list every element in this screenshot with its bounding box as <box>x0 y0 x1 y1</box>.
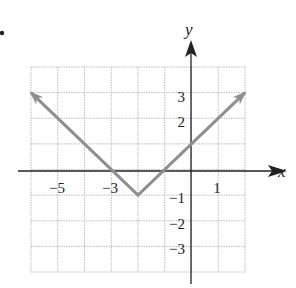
y-axis-label: y <box>183 20 193 39</box>
y-tick-label: −2 <box>169 216 185 232</box>
y-tick-label: −1 <box>169 190 185 206</box>
grid <box>31 67 245 272</box>
x-tick-label: 1 <box>213 180 221 196</box>
graph-figure: x y −5 −3 1 3 2 −1 −2 −3 <box>0 0 296 288</box>
y-tick-label: −3 <box>169 241 185 257</box>
x-tick-label: −3 <box>102 180 118 196</box>
tick-labels: −5 −3 1 3 2 −1 −2 −3 <box>49 89 221 257</box>
bullet-dot <box>0 31 4 35</box>
x-tick-label: −5 <box>49 180 65 196</box>
axes: x y <box>18 20 287 284</box>
x-axis-label: x <box>277 162 286 181</box>
y-tick-label: 2 <box>178 114 186 130</box>
y-tick-label: 3 <box>178 89 186 105</box>
